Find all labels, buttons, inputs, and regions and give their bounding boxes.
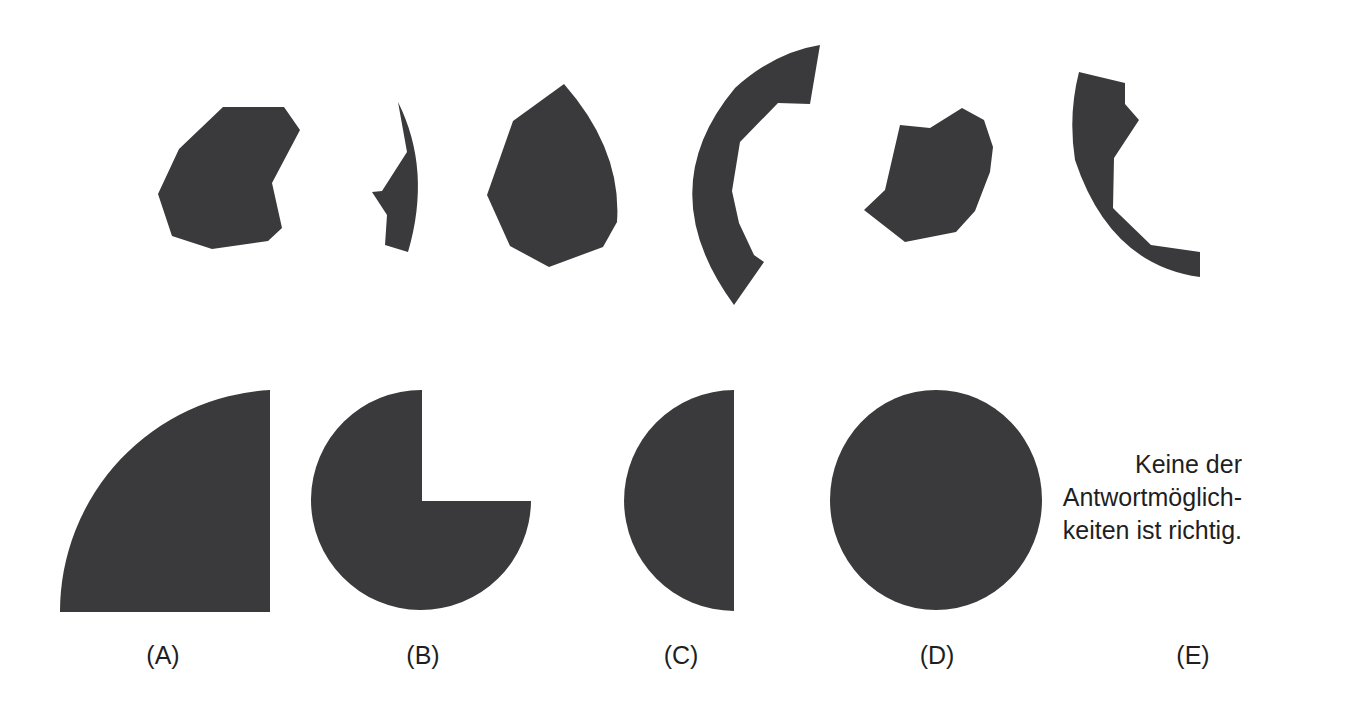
- piece-2: [372, 102, 418, 252]
- option-e-text-line: Keine der: [1022, 448, 1242, 481]
- option-c-label: (C): [664, 641, 699, 669]
- three-quarter-circle-shape: [311, 390, 531, 610]
- option-b-label: (B): [406, 641, 439, 669]
- piece-5: [864, 108, 993, 242]
- piece-6: [1072, 72, 1200, 277]
- half-circle-shape: [624, 390, 734, 611]
- option-c[interactable]: (C): [624, 390, 734, 669]
- full-circle-shape: [830, 390, 1042, 610]
- option-d[interactable]: (D): [830, 390, 1042, 669]
- piece-3: [487, 84, 617, 267]
- option-e-text: Keine der Antwortmöglich- keiten ist ric…: [1022, 448, 1242, 547]
- pieces-row: [158, 45, 1200, 305]
- option-a-label: (A): [146, 641, 179, 669]
- piece-1: [158, 107, 300, 249]
- option-a[interactable]: (A): [60, 390, 270, 669]
- option-e-label: (E): [1176, 641, 1209, 669]
- option-e[interactable]: (E): [1176, 641, 1209, 669]
- option-d-label: (D): [920, 641, 955, 669]
- piece-4: [692, 45, 820, 305]
- quarter-circle-shape: [60, 390, 270, 612]
- option-b[interactable]: (B): [311, 390, 531, 669]
- option-e-text-line: keiten ist richtig.: [1022, 514, 1242, 547]
- puzzle-figure: (A) (B) (C) (D) (E): [0, 0, 1355, 708]
- option-e-text-line: Antwortmöglich-: [1022, 481, 1242, 514]
